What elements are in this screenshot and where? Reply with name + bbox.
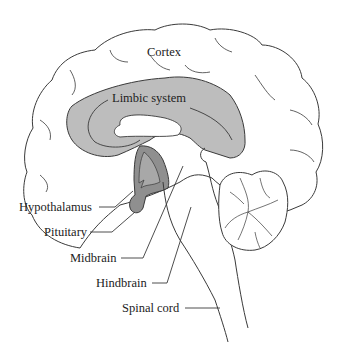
label-hypothalamus: Hypothalamus (19, 201, 92, 214)
label-spinal-cord: Spinal cord (122, 302, 179, 315)
label-cortex: Cortex (147, 46, 181, 59)
label-pituitary: Pituitary (44, 226, 87, 239)
cerebellum (219, 171, 288, 250)
label-limbic-system: Limbic system (112, 92, 186, 105)
label-midbrain: Midbrain (70, 252, 117, 265)
label-hindbrain: Hindbrain (96, 277, 147, 290)
